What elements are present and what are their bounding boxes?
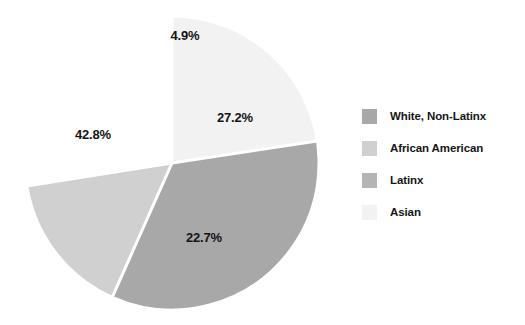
- legend-color-swatch-icon: [362, 173, 377, 188]
- chart-legend: White, Non-LatinxAfrican AmericanLatinxA…: [362, 100, 522, 228]
- legend-color-swatch-icon: [362, 205, 377, 220]
- pie-slices-group: [27, 16, 319, 310]
- pie-chart-area: 42.8%22.7%27.2%4.9%: [0, 0, 340, 325]
- pie-slice-value-label: 42.8%: [75, 127, 111, 142]
- pie-slice-value-label: 27.2%: [217, 110, 253, 125]
- legend-item[interactable]: White, Non-Latinx: [362, 100, 522, 132]
- legend-item-label: White, Non-Latinx: [390, 110, 486, 122]
- legend-item[interactable]: Asian: [362, 196, 522, 228]
- legend-color-swatch-icon: [362, 109, 377, 124]
- pie-chart-page: 42.8%22.7%27.2%4.9% White, Non-LatinxAfr…: [0, 0, 525, 325]
- pie-slice-value-label: 22.7%: [186, 230, 222, 245]
- legend-item-label: Asian: [390, 206, 421, 218]
- legend-item-label: African American: [390, 142, 483, 154]
- legend-item[interactable]: Latinx: [362, 164, 522, 196]
- pie-chart-svg: [0, 0, 340, 325]
- pie-slice-value-label: 4.9%: [171, 28, 200, 43]
- legend-item[interactable]: African American: [362, 132, 522, 164]
- legend-item-label: Latinx: [390, 174, 423, 186]
- legend-color-swatch-icon: [362, 141, 377, 156]
